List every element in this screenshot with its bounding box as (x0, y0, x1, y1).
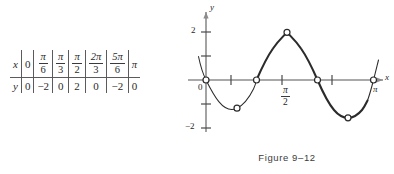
sine-curve-plot (180, 0, 394, 152)
curve-segment-thick-hump (257, 32, 318, 80)
fraction-pi-over-2: π 2 (72, 52, 81, 75)
cell-x-1: π 6 (34, 50, 53, 78)
cell-x-6: π (128, 50, 140, 78)
origin-label: 0 (198, 82, 203, 92)
table-row-x: x 0 π 6 π 3 π 2 (10, 50, 140, 78)
fraction-pi-over-6: π 6 (39, 52, 48, 75)
cell-y-1: −2 (34, 78, 53, 94)
x-axis (188, 77, 383, 82)
cell-y-2: 0 (53, 78, 69, 94)
table-row-y: y 0 −2 0 2 0 −2 0 (10, 78, 140, 94)
cell-y-5: −2 (107, 78, 129, 94)
cell-y-0: 0 (21, 78, 34, 94)
values-table: x 0 π 6 π 3 π 2 (10, 50, 175, 93)
point-5pi6-neg2 (345, 115, 351, 121)
y-tick-label-neg2: −2 (185, 121, 195, 131)
y-tick-label-2: 2 (191, 25, 196, 35)
x-tick-label-pi: π (373, 84, 378, 94)
cell-y-4: 0 (85, 78, 107, 94)
y-axis-label: y (210, 2, 214, 12)
point-pi-0 (371, 77, 377, 83)
cell-x-4: 2π 3 (85, 50, 107, 78)
cell-x-2: π 3 (53, 50, 69, 78)
y-axis (203, 12, 208, 132)
x-axis-label: x (385, 72, 389, 82)
point-2pi3-0 (315, 77, 321, 83)
table-of-values: x 0 π 6 π 3 π 2 (10, 50, 140, 93)
x-tick-label-pi-over-2: π 2 (281, 86, 290, 107)
graph-figure: y x 2 −2 0 π 2 π Figure 9–12 (180, 0, 394, 174)
point-pi6-neg2 (234, 105, 240, 111)
cell-y-3: 2 (69, 78, 85, 94)
curve-segment-thick-trough (318, 80, 368, 118)
cell-x-5: 5π 6 (107, 50, 129, 78)
fraction-pi-over-3: π 3 (56, 52, 65, 75)
cell-x-3: π 2 (69, 50, 85, 78)
fraction-five-pi-over-6: 5π 6 (110, 52, 125, 75)
fraction-two-pi-over-3: 2π 3 (89, 52, 104, 75)
point-pi2-2 (284, 29, 290, 35)
row-label-y: y (10, 78, 21, 94)
figure-caption: Figure 9–12 (180, 152, 394, 163)
cell-y-6: 0 (128, 78, 140, 94)
point-0-0 (203, 77, 209, 83)
point-pi3-0 (254, 77, 260, 83)
row-label-x: x (10, 50, 21, 78)
cell-x-0: 0 (21, 50, 34, 78)
